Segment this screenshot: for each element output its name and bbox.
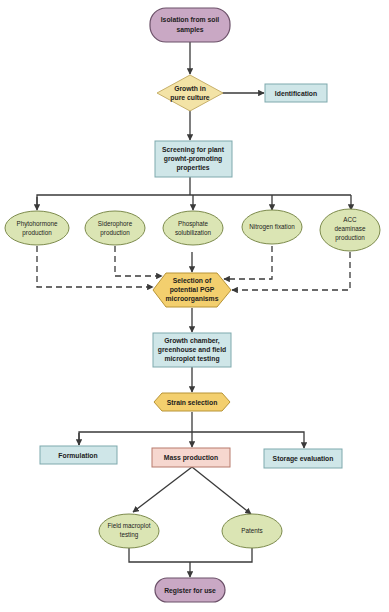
node-identification: Identification [265,84,327,102]
node-selection-pgp: Selection of potential PGP microorganism… [153,273,231,307]
svg-text:Screening for plant: Screening for plant [162,146,225,154]
svg-text:Formulation: Formulation [58,452,97,459]
node-strain-selection: Strain selection [154,393,230,411]
node-storage-evaluation: Storage evaluation [264,449,342,468]
node-nitrogen-fixation: Nitrogen fixation [242,210,302,244]
svg-text:production: production [22,229,52,237]
node-growth-pure-culture: Growth in pure culture [157,75,223,111]
svg-text:Storage evaluation: Storage evaluation [273,455,334,463]
svg-text:Identification: Identification [275,90,317,97]
svg-text:Register for use: Register for use [164,587,216,595]
node-acc-deaminase: ACC deaminase production [320,209,380,251]
node-formulation: Formulation [40,446,117,464]
svg-text:microorganisms: microorganisms [166,295,219,303]
node-phosphate: Phosphate solubilization [163,211,223,245]
svg-text:Nitrogen fixation: Nitrogen fixation [249,223,295,231]
node-patents: Patents [222,514,282,548]
node-mass-production: Mass production [152,448,230,467]
svg-text:samples: samples [176,26,203,34]
svg-text:Selection of: Selection of [173,277,212,284]
svg-text:deaminase: deaminase [335,225,366,232]
svg-text:pure culture: pure culture [170,94,209,102]
svg-text:solubilization: solubilization [175,229,212,236]
svg-text:Siderophore: Siderophore [98,220,133,228]
svg-text:Phosphate: Phosphate [178,220,209,228]
svg-text:potential PGP: potential PGP [170,286,215,294]
node-register-for-use: Register for use [155,578,225,602]
svg-text:Field macroplot: Field macroplot [107,522,150,530]
svg-text:testing: testing [120,531,139,539]
svg-text:Mass production: Mass production [164,454,218,462]
svg-text:ACC: ACC [343,216,357,223]
node-growth-chamber-testing: Growth chamber, greenhouse and field mic… [153,333,231,367]
node-field-macroplot: Field macroplot testing [99,514,159,548]
svg-text:production: production [100,229,130,237]
svg-text:greenhouse and field: greenhouse and field [158,346,226,354]
pgp-flowchart: Isolation from soil samples Growth in pu… [0,0,389,612]
node-isolation-from-soil: Isolation from soil samples [150,8,230,42]
svg-text:Isolation from soil: Isolation from soil [161,16,220,23]
svg-text:Strain selection: Strain selection [167,399,218,406]
node-screening: Screening for plant growht-promoting pro… [155,141,232,177]
svg-text:growht-promoting: growht-promoting [164,155,223,163]
svg-text:properties: properties [176,164,209,172]
node-phytohormone: Phytohormone production [5,211,69,245]
svg-text:Patents: Patents [241,527,262,534]
svg-text:microplot testing: microplot testing [164,355,219,363]
svg-text:Phytohormone: Phytohormone [17,220,58,228]
connectors [37,42,351,577]
svg-text:production: production [335,234,365,242]
svg-text:Growth chamber,: Growth chamber, [164,337,220,345]
node-siderophore: Siderophore production [85,211,145,245]
svg-text:Growth in: Growth in [174,85,206,92]
